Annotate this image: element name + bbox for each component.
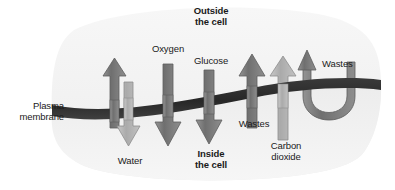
shaft-oxygen [163, 95, 173, 117]
label-oxygen: Oxygen [140, 43, 196, 54]
label-carbon-dioxide: Carbon dioxide [258, 140, 314, 162]
label-outside-the-cell: Outside the cell [175, 5, 247, 27]
shaft-wastes-mid [247, 86, 257, 108]
label-wastes-right: Wastes [322, 58, 378, 69]
label-wastes-mid: Wastes [228, 118, 280, 129]
shaft-water-in [124, 98, 133, 120]
label-water: Water [100, 155, 160, 166]
label-glucose: Glucose [183, 55, 239, 66]
label-inside-the-cell: Inside the cell [175, 148, 247, 170]
shaft-water-out [110, 100, 119, 122]
cell-membrane-transport-diagram: Outside the cell Inside the cell Plasma … [0, 0, 395, 190]
shaft-glucose [204, 92, 214, 114]
label-plasma-membrane: Plasma membrane [4, 100, 64, 122]
shaft-carbon-dioxide [278, 84, 288, 108]
